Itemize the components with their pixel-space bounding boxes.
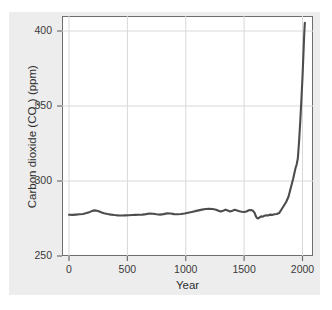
y-axis-title-pre: Carbon dioxide (CO (26, 107, 38, 209)
co2-figure: 250300350400 0500100015002000 Carbon dio… (0, 0, 332, 310)
y-axis-title-post: ) (ppm) (26, 65, 38, 102)
gridlines (62, 16, 313, 256)
axis-ticks (57, 31, 302, 261)
x-tick-label-1500: 1500 (224, 263, 264, 275)
co2-line-series (69, 23, 305, 219)
x-axis-title: Year (62, 279, 313, 291)
y-axis-title: Carbon dioxide (CO2) (ppm) (26, 27, 41, 247)
y-tick-label-250: 250 (18, 249, 52, 261)
x-tick-label-1000: 1000 (166, 263, 206, 275)
x-tick-label-2000: 2000 (282, 263, 322, 275)
y-axis-title-subscript: 2 (33, 102, 42, 106)
x-tick-label-500: 500 (107, 263, 147, 275)
x-tick-label-0: 0 (49, 263, 89, 275)
